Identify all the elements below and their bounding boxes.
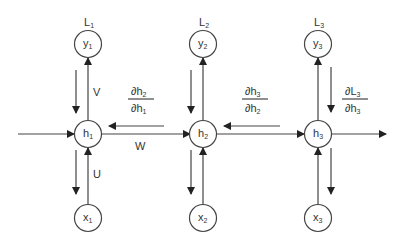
- gradient-denominator-dh2: ∂h2: [245, 102, 261, 115]
- weight-label-u: U: [93, 168, 101, 180]
- loss-label-1: L1: [84, 16, 94, 29]
- gradient-numerator-dl3: ∂L3: [345, 85, 361, 98]
- gradient-denominator-dh3: ∂h3: [345, 102, 361, 115]
- weight-label-w: W: [135, 140, 146, 152]
- weight-label-v: V: [93, 86, 101, 98]
- gradient-numerator-dh3: ∂h3: [245, 85, 261, 98]
- gradient-denominator-dh1: ∂h1: [131, 102, 147, 115]
- gradient-numerator-dh2: ∂h2: [131, 85, 147, 98]
- loss-label-2: L2: [199, 16, 209, 29]
- loss-label-3: L3: [314, 16, 324, 29]
- rnn-diagram: L1 L2 L3 y1 y2 y3 h1 h2 h3 x1 x2 x3 V W …: [0, 0, 401, 241]
